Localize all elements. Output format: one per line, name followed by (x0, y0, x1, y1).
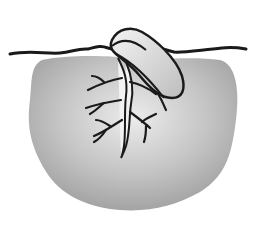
seed-germination-diagram (0, 0, 267, 229)
soil-mass (29, 56, 238, 210)
diagram-canvas (0, 0, 267, 229)
